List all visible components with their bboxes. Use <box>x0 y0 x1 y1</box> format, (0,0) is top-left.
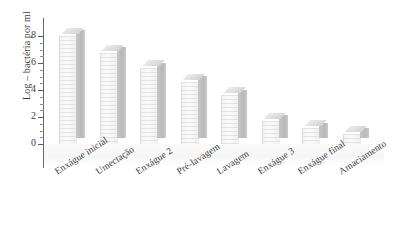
bar-side-face <box>198 76 207 138</box>
bar-side-face <box>157 63 166 139</box>
bar-front-face <box>181 82 199 144</box>
y-axis-minor-tick <box>40 97 44 98</box>
bar <box>59 27 76 144</box>
y-axis-minor-tick <box>40 56 44 57</box>
y-axis-tick-label: 0 <box>6 138 36 148</box>
bar-front-face <box>262 121 280 144</box>
y-axis-major-tick <box>38 117 44 118</box>
bar <box>343 125 360 144</box>
y-axis-tick-label: 8 <box>6 30 36 40</box>
bar-front-face <box>140 68 158 144</box>
bar-front-face <box>221 95 239 144</box>
y-axis-minor-tick <box>40 131 44 132</box>
y-axis-tick-label: 2 <box>6 111 36 121</box>
bar-front-face <box>59 36 77 144</box>
y-axis-major-tick <box>38 63 44 64</box>
y-axis-minor-tick <box>40 77 44 78</box>
y-axis-tick-label: 6 <box>6 57 36 67</box>
y-axis-minor-tick <box>40 110 44 111</box>
bar-side-face <box>238 90 247 139</box>
bar-side-face <box>76 30 85 138</box>
y-axis-minor-tick <box>40 104 44 105</box>
bar-front-face <box>100 53 118 144</box>
bar-chart: Log – bactéria por ml 86420 Enxágue inic… <box>0 0 396 244</box>
bar <box>262 112 279 144</box>
bar <box>140 59 157 144</box>
y-axis-major-tick <box>38 144 44 145</box>
bar <box>100 44 117 144</box>
y-axis-tick-labels: 86420 <box>0 0 36 244</box>
y-axis-minor-tick <box>40 70 44 71</box>
y-axis-minor-tick <box>40 83 44 84</box>
bar <box>221 86 238 144</box>
bar-front-face <box>302 128 320 144</box>
bar <box>181 73 198 144</box>
y-axis-minor-tick <box>40 124 44 125</box>
x-axis-tick-labels: Enxágue inicialUmectaçãoEnxágue 2Pré-lav… <box>44 168 396 244</box>
bar-front-face <box>343 134 361 144</box>
y-axis-minor-tick <box>40 43 44 44</box>
y-axis-major-tick <box>38 36 44 37</box>
bar <box>302 119 319 144</box>
y-axis-minor-tick <box>40 50 44 51</box>
y-axis-tick-label: 4 <box>6 84 36 94</box>
y-axis-major-tick <box>38 90 44 91</box>
bar-side-face <box>117 47 126 138</box>
y-axis-minor-tick <box>40 137 44 138</box>
